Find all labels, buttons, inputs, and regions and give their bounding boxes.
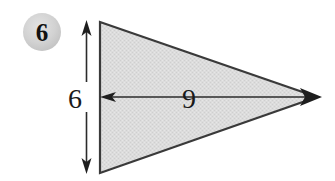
width-label: 9 — [182, 83, 196, 114]
height-dimension-arrow: 6 — [68, 20, 96, 174]
problem-number-badge: 6 — [23, 13, 61, 51]
geometry-figure: 6 6 9 — [0, 0, 335, 181]
problem-number-label: 6 — [36, 19, 49, 46]
height-label: 6 — [68, 83, 82, 114]
figure-canvas: 6 6 9 — [0, 0, 335, 181]
